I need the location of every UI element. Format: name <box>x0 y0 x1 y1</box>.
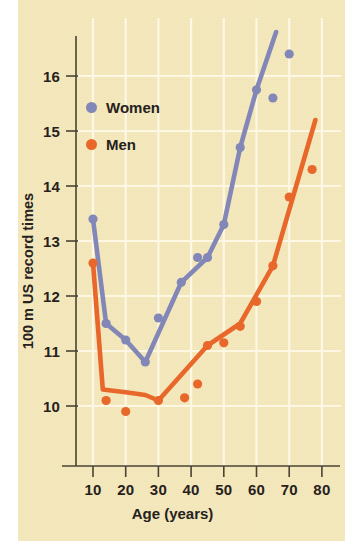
legend-swatch-women-icon <box>86 102 97 113</box>
data-point-women <box>141 357 150 366</box>
data-point-men <box>219 338 228 347</box>
y-axis-tick-label: 10 <box>14 398 60 415</box>
data-point-men <box>154 396 163 405</box>
data-point-men <box>203 341 212 350</box>
x-axis-tick-label: 70 <box>281 481 298 498</box>
data-point-men <box>121 407 130 416</box>
x-axis-tick-label: 10 <box>84 481 101 498</box>
data-point-women <box>102 319 111 328</box>
x-axis-tick-label: 50 <box>215 481 232 498</box>
data-point-women <box>154 313 163 322</box>
data-point-men <box>102 396 111 405</box>
data-point-women <box>236 143 245 152</box>
x-axis-title: Age (years) <box>0 505 345 522</box>
data-point-men <box>268 261 277 270</box>
data-point-men <box>88 258 97 267</box>
y-axis-tick-label: 15 <box>14 123 60 140</box>
data-point-men <box>252 297 261 306</box>
x-axis-tick-label: 40 <box>183 481 200 498</box>
data-point-women <box>268 93 277 102</box>
y-axis-tick-label: 16 <box>14 68 60 85</box>
data-point-women <box>88 214 97 223</box>
data-point-women <box>252 85 261 94</box>
x-axis-tick-label: 30 <box>150 481 167 498</box>
data-point-men <box>236 322 245 331</box>
legend-swatch-men-icon <box>86 139 97 150</box>
data-point-men <box>180 393 189 402</box>
x-axis-ticks <box>93 466 322 477</box>
legend-entry-women: Women <box>86 100 160 115</box>
legend-label-women: Women <box>106 100 160 115</box>
data-point-women <box>121 335 130 344</box>
legend-label-men: Men <box>106 137 136 152</box>
data-point-men <box>308 165 317 174</box>
y-axis-title: 100 m US record times <box>20 171 36 371</box>
data-point-men <box>285 192 294 201</box>
x-axis-tick-label: 20 <box>117 481 134 498</box>
legend-entry-men: Men <box>86 137 136 152</box>
data-point-women <box>177 278 186 287</box>
chart-figure: 10111213141516 1020304050607080 100 m US… <box>0 0 345 553</box>
data-point-women <box>193 253 202 262</box>
data-point-women <box>203 253 212 262</box>
x-axis-tick-label: 80 <box>313 481 330 498</box>
x-axis-tick-label: 60 <box>248 481 265 498</box>
data-point-women <box>219 220 228 229</box>
data-point-women <box>285 49 294 58</box>
data-point-men <box>193 379 202 388</box>
horizontal-gridlines <box>78 76 341 406</box>
